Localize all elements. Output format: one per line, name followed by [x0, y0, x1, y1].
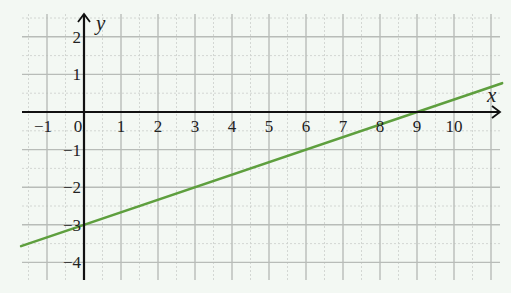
x-tick-label: 6: [302, 117, 311, 136]
x-tick-label: 2: [154, 117, 163, 136]
y-axis-label: y: [94, 11, 106, 35]
y-tick-label: −3: [63, 216, 81, 235]
line-graph: −1012345678910 21−1−2−3−4 x y: [0, 0, 511, 293]
x-tick-label: 4: [228, 117, 237, 136]
x-tick-label: 10: [446, 117, 463, 136]
y-tick-label: 2: [73, 28, 82, 47]
x-tick-label: 8: [376, 117, 385, 136]
x-tick-label: 1: [117, 117, 126, 136]
y-tick-label: −1: [63, 141, 81, 160]
y-tick-label: 1: [73, 65, 82, 84]
x-tick-label: 3: [191, 117, 200, 136]
x-tick-label: 0: [74, 117, 83, 136]
x-tick-label: 5: [265, 117, 274, 136]
x-tick-label: 9: [413, 117, 422, 136]
x-tick-label: 7: [339, 117, 348, 136]
x-tick-label: −1: [34, 117, 52, 136]
y-tick-label: −4: [63, 253, 82, 272]
y-tick-label: −2: [63, 178, 81, 197]
x-axis-label: x: [486, 83, 497, 107]
